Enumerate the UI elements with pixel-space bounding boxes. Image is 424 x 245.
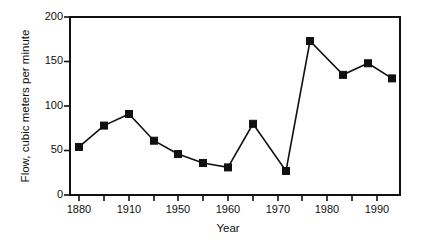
data-point-marker xyxy=(175,151,182,158)
data-point-marker xyxy=(151,137,158,144)
x-tick-label-1910: 1910 xyxy=(117,203,141,215)
data-point-marker xyxy=(283,167,290,174)
x-tick-label-1880: 1880 xyxy=(67,203,91,215)
data-point-marker xyxy=(76,143,83,150)
y-tick-label-200: 200 xyxy=(45,10,63,22)
axis-spines xyxy=(70,17,400,195)
x-tick-labels: 1880 1910 1950 1960 1970 1980 1990 xyxy=(67,203,389,215)
data-point-marker xyxy=(340,71,347,78)
data-point-marker xyxy=(225,164,232,171)
series-line-flow xyxy=(79,41,392,171)
chart-figure: Flow, cubic meters per minute 200 150 10… xyxy=(0,0,424,245)
x-tick-label-1990: 1990 xyxy=(365,203,389,215)
x-tick-label-1950: 1950 xyxy=(166,203,190,215)
y-tick-labels: 200 150 100 50 0 xyxy=(45,10,63,200)
flow-line-chart: Flow, cubic meters per minute 200 150 10… xyxy=(0,0,424,245)
data-point-marker xyxy=(250,120,257,127)
data-point-marker xyxy=(389,75,396,82)
data-point-marker xyxy=(200,159,207,166)
x-axis-title: Year xyxy=(216,222,239,234)
data-point-marker xyxy=(307,38,314,45)
data-point-marker xyxy=(365,60,372,67)
y-tick-label-100: 100 xyxy=(45,99,63,111)
x-tick-label-1970: 1970 xyxy=(266,203,290,215)
y-tick-label-150: 150 xyxy=(45,54,63,66)
x-tick-label-1980: 1980 xyxy=(315,203,339,215)
y-tick-label-0: 0 xyxy=(57,188,63,200)
data-point-marker xyxy=(126,111,133,118)
data-point-marker xyxy=(101,122,108,129)
x-tick-label-1960: 1960 xyxy=(216,203,240,215)
y-axis-title: Flow, cubic meters per minute xyxy=(19,30,31,183)
y-tick-label-50: 50 xyxy=(51,143,63,155)
